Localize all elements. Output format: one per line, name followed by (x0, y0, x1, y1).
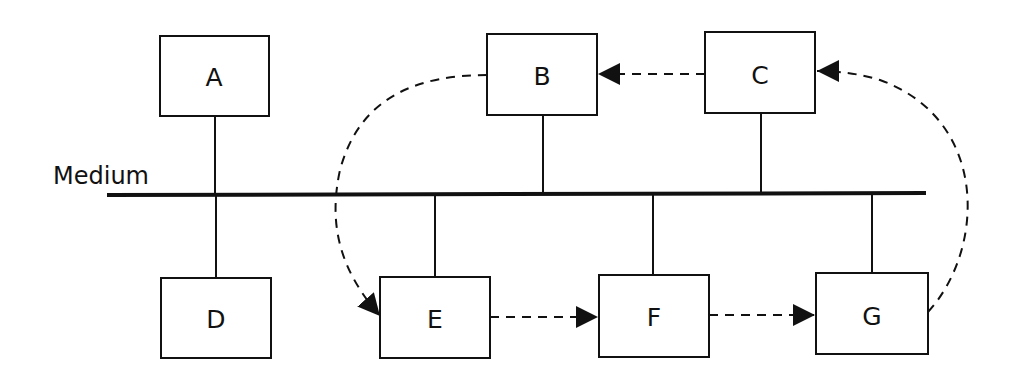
node-d-label: D (206, 305, 225, 334)
node-c: C (705, 32, 815, 113)
node-f-label: F (647, 303, 661, 332)
medium-bus-line (107, 193, 926, 195)
node-b-label: B (533, 62, 550, 91)
node-a-label: A (205, 63, 222, 92)
network-diagram: Medium A B C D E F G (0, 0, 1017, 380)
node-a: A (160, 36, 269, 116)
node-b: B (487, 34, 597, 115)
node-e: E (380, 277, 490, 358)
medium-label: Medium (53, 162, 149, 190)
node-c-label: C (751, 61, 768, 90)
node-g: G (816, 273, 928, 354)
node-f: F (599, 275, 709, 357)
node-g-label: G (862, 302, 881, 331)
node-d: D (161, 278, 271, 358)
node-e-label: E (427, 305, 443, 334)
